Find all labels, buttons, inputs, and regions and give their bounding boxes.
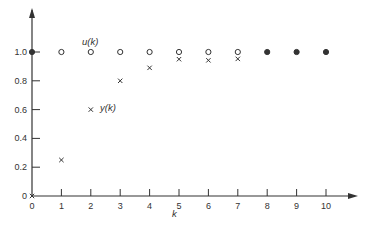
y-marker <box>206 58 210 62</box>
u-annotation: u(k) <box>82 36 98 47</box>
y-axis-ticks: 00.20.40.60.81.0 <box>14 47 40 201</box>
series-y <box>30 57 240 199</box>
u-marker <box>323 49 328 54</box>
x-tick-label: 3 <box>118 201 123 211</box>
u-marker <box>206 49 211 54</box>
x-axis-ticks: 012345678910 <box>29 189 331 211</box>
x-tick-label: 7 <box>235 201 240 211</box>
u-marker <box>235 49 240 54</box>
x-tick-label: 4 <box>147 201 152 211</box>
x-tick-label: 5 <box>176 201 181 211</box>
x-tick-label: 0 <box>29 201 34 211</box>
y-marker <box>236 57 240 61</box>
y-marker <box>118 79 122 83</box>
x-tick-label: 8 <box>265 201 270 211</box>
x-tick-label: 9 <box>294 201 299 211</box>
y-tick-label: 1.0 <box>14 47 27 57</box>
step-response-chart: 00.20.40.60.81.0 012345678910 u(k) y(k) … <box>0 0 366 233</box>
x-tick-label: 1 <box>59 201 64 211</box>
y-marker <box>177 57 181 61</box>
y-tick-label: 0.8 <box>14 76 27 86</box>
u-marker <box>265 49 270 54</box>
u-marker <box>29 49 34 54</box>
y-axis-arrow-icon <box>29 8 35 18</box>
y-marker <box>147 66 151 70</box>
u-marker <box>147 49 152 54</box>
x-tick-label: 2 <box>88 201 93 211</box>
axes <box>29 8 358 199</box>
x-tick-label: 10 <box>321 201 331 211</box>
y-tick-label: 0 <box>22 191 27 201</box>
y-tick-label: 0.2 <box>14 162 27 172</box>
series-u <box>29 49 328 54</box>
u-marker <box>59 49 64 54</box>
u-marker <box>118 49 123 54</box>
x-axis-arrow-icon <box>348 193 358 199</box>
y-tick-label: 0.4 <box>14 133 27 143</box>
x-tick-label: 6 <box>206 201 211 211</box>
u-marker <box>176 49 181 54</box>
u-marker <box>88 49 93 54</box>
y-tick-label: 0.6 <box>14 105 27 115</box>
u-marker <box>294 49 299 54</box>
y-marker <box>59 158 63 162</box>
y-marker <box>89 107 93 111</box>
y-annotation: y(k) <box>99 102 116 113</box>
